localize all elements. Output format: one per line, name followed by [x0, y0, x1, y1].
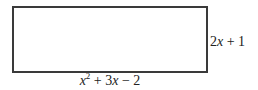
height-coef: 2 [210, 34, 217, 49]
width-label: x2 + 3x − 2 [0, 73, 220, 89]
height-label: 2x + 1 [210, 34, 245, 50]
rectangle-shape [12, 6, 208, 73]
height-rest: + 1 [223, 34, 245, 49]
width-rest-2: − 2 [118, 73, 140, 88]
width-rest-1: + 3 [90, 73, 112, 88]
